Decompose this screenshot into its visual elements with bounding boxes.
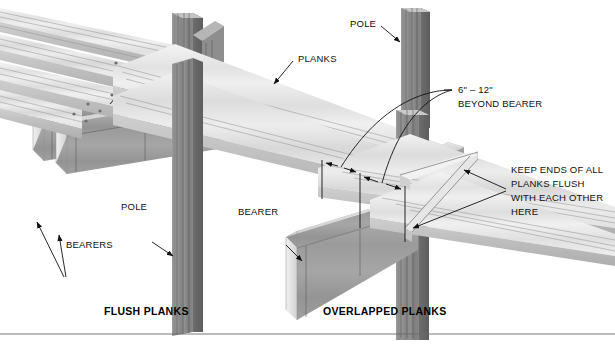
label-note-line3: WITH EACH OTHER xyxy=(511,192,603,203)
label-bearers: BEARERS xyxy=(66,239,113,250)
label-planks: PLANKS xyxy=(298,53,337,64)
label-note-line1: KEEP ENDS OF ALL xyxy=(511,164,603,175)
label-pole-top: POLE xyxy=(350,18,376,29)
caption-overlapped-planks: OVERLAPPED PLANKS xyxy=(323,305,447,317)
scaffold-diagram: PLANKS POLE POLE BEARER BEARERS 6" – 12"… xyxy=(0,0,615,346)
label-note-line2: PLANKS FLUSH xyxy=(511,178,585,189)
label-bearer: BEARER xyxy=(238,206,278,217)
label-dimension-line2: BEYOND BEARER xyxy=(458,98,542,109)
label-note-line4: HERE xyxy=(511,206,538,217)
label-dimension-line1: 6" – 12" xyxy=(458,84,493,95)
leader-planks xyxy=(274,61,293,84)
figure-canvas: PLANKS POLE POLE BEARER BEARERS 6" – 12"… xyxy=(0,0,615,346)
caption-flush-planks: FLUSH PLANKS xyxy=(104,305,189,317)
leader-bearers xyxy=(37,222,66,277)
pole-flush-center xyxy=(172,58,203,336)
leader-pole-top xyxy=(381,26,400,42)
leader-pole-bottom xyxy=(152,242,173,256)
label-pole-bottom: POLE xyxy=(121,201,147,212)
